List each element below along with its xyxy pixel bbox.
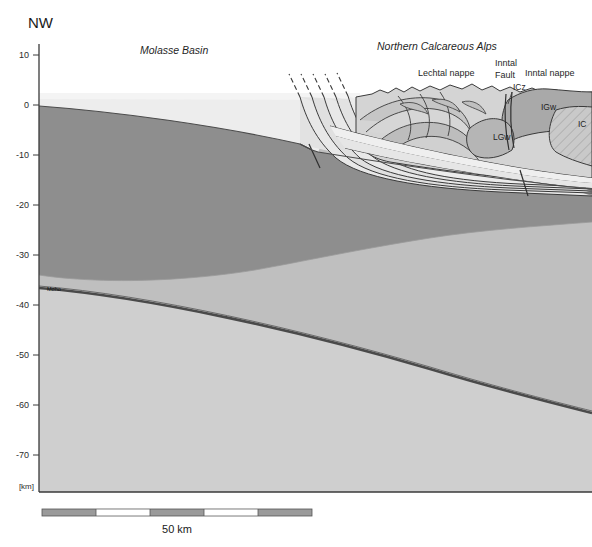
y-tick-m30: -30 bbox=[16, 250, 29, 260]
y-tick-m50: -50 bbox=[16, 350, 29, 360]
y-tick-10: 10 bbox=[19, 50, 29, 60]
label-inntal-fault-line2: Fault bbox=[495, 70, 516, 80]
cross-section-figure: 10 0 -10 -20 -30 -40 -50 -60 -70 [km] NW… bbox=[0, 0, 592, 547]
y-tick-m20: -20 bbox=[16, 200, 29, 210]
label-icz: ICz bbox=[513, 82, 526, 92]
y-tick-m10: -10 bbox=[16, 150, 29, 160]
orientation-label-nw: NW bbox=[28, 14, 54, 31]
scale-bar-label: 50 km bbox=[162, 523, 192, 535]
label-molasse-basin: Molasse Basin bbox=[140, 44, 208, 56]
y-tick-m60: -60 bbox=[16, 400, 29, 410]
y-axis-unit-label: [km] bbox=[19, 482, 34, 491]
label-inntal-nappe: Inntal nappe bbox=[525, 68, 575, 78]
label-ic: IC bbox=[578, 119, 587, 129]
cross-section-canvas: 10 0 -10 -20 -30 -40 -50 -60 -70 [km] NW… bbox=[0, 0, 592, 547]
label-lgw: LGw bbox=[493, 132, 511, 142]
label-moho: Moho bbox=[47, 286, 61, 292]
label-lechtal-nappe: Lechtal nappe bbox=[418, 68, 475, 78]
label-northern-calcareous-alps: Northern Calcareous Alps bbox=[377, 40, 498, 52]
y-tick-m70: -70 bbox=[16, 450, 29, 460]
y-tick-0: 0 bbox=[24, 100, 29, 110]
label-igw: IGw bbox=[541, 102, 557, 112]
label-inntal-fault-line1: Inntal bbox=[495, 58, 517, 68]
y-tick-m40: -40 bbox=[16, 300, 29, 310]
scale-bar bbox=[42, 509, 312, 516]
